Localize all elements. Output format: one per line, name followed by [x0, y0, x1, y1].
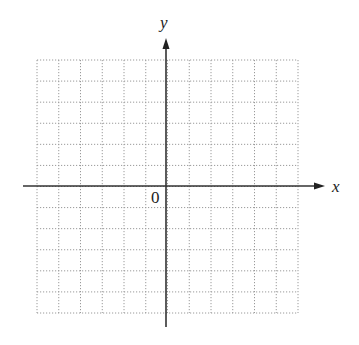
origin-label: 0 [151, 188, 160, 207]
y-axis-label: y [158, 13, 168, 32]
y-axis-arrow-icon [163, 38, 170, 49]
coordinate-plane: x y 0 [0, 0, 359, 345]
x-axis-label: x [331, 177, 340, 196]
x-axis-arrow-icon [314, 183, 325, 190]
